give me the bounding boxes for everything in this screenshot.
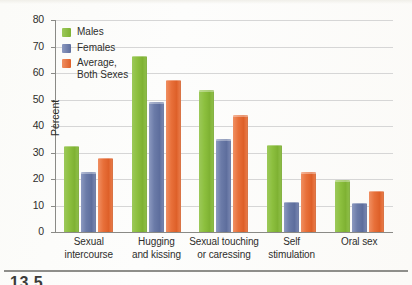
bar-group [190,20,258,232]
legend-swatch-females [62,44,71,53]
y-tick-label-30: 30 [0,146,44,158]
bar-males [132,56,147,232]
legend-swatch-average [62,59,71,68]
bar-group [258,20,326,232]
y-tick-label-70: 70 [0,40,44,52]
bar-average [301,172,316,232]
bar-group [123,20,191,232]
chart-legend: MalesFemalesAverage, Both Sexes [62,26,128,81]
y-tick-label-0: 0 [0,225,44,237]
bar-average [369,191,384,232]
gridline-0 [55,232,393,233]
bar-males [335,180,350,232]
x-category-label: Oral sex [317,236,401,249]
y-tick-label-10: 10 [0,199,44,211]
x-axis-category-labels: SexualintercourseHuggingand kissingSexua… [55,236,393,282]
y-tick-label-40: 40 [0,119,44,131]
y-axis-tick-labels: 01020304050607080 [0,0,52,285]
bar-chart: 01020304050607080 Percent Sexualintercou… [0,0,412,285]
bar-group [325,20,393,232]
legend-label: Females [77,42,115,54]
bar-males [64,146,79,232]
bar-females [216,139,231,232]
bar-average [98,158,113,232]
legend-label: Average, Both Sexes [77,57,128,81]
bar-females [352,203,367,232]
legend-label: Males [77,26,104,38]
figure-number: 13.5 [10,274,43,285]
y-tick-label-50: 50 [0,93,44,105]
bar-average [233,115,248,232]
y-tick-label-80: 80 [0,13,44,25]
y-tick-mark-0 [51,232,55,233]
legend-swatch-males [62,28,71,37]
bar-males [199,90,214,232]
legend-item: Females [62,42,128,54]
legend-item: Average, Both Sexes [62,57,128,81]
bar-males [267,145,282,232]
bar-females [81,172,96,232]
caption-divider [4,270,408,272]
bar-females [149,102,164,232]
y-tick-label-60: 60 [0,66,44,78]
y-tick-label-20: 20 [0,172,44,184]
bar-females [284,202,299,232]
legend-item: Males [62,26,128,38]
bar-average [166,80,181,232]
